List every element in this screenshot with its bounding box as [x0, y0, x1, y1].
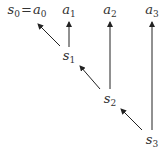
- edge-s1-to-s0: [38, 24, 60, 46]
- edge-s2-to-s1: [80, 66, 100, 89]
- node-s0-a0: s0=a0: [8, 3, 47, 19]
- node-a2: a2: [103, 3, 117, 19]
- edges-layer: [0, 0, 164, 152]
- diagram-canvas: s0=a0 a1 a2 a3 s1 s2 s3: [0, 0, 164, 152]
- node-s2: s2: [104, 92, 116, 108]
- edge-s3-to-s2: [121, 109, 142, 130]
- node-s1: s1: [63, 49, 75, 65]
- node-a1: a1: [62, 3, 76, 19]
- node-s3: s3: [146, 133, 158, 149]
- node-a3: a3: [145, 3, 159, 19]
